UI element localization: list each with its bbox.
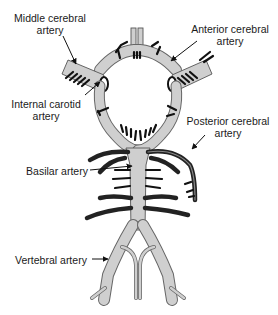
basilar-artery-label: Basilar artery <box>22 165 92 177</box>
posterior-cerebral-artery-label: Posterior cerebral artery <box>180 115 276 139</box>
middle-cerebral-artery-label: Middle cerebral artery <box>10 12 90 36</box>
vertebral-artery-label: Vertebral artery <box>10 254 92 266</box>
internal-carotid-artery-label: Internal carotid artery <box>6 98 86 122</box>
artery-illustration <box>0 0 278 315</box>
anterior-cerebral-artery-label: Anterior cerebral artery <box>185 23 275 47</box>
circle-sides <box>99 86 176 150</box>
vertebral-arteries <box>92 225 184 300</box>
middle-cerebral-leader <box>63 36 76 64</box>
basilar-trunk <box>126 148 150 230</box>
circle-of-willis-diagram: Middle cerebral artery Anterior cerebral… <box>0 0 278 315</box>
